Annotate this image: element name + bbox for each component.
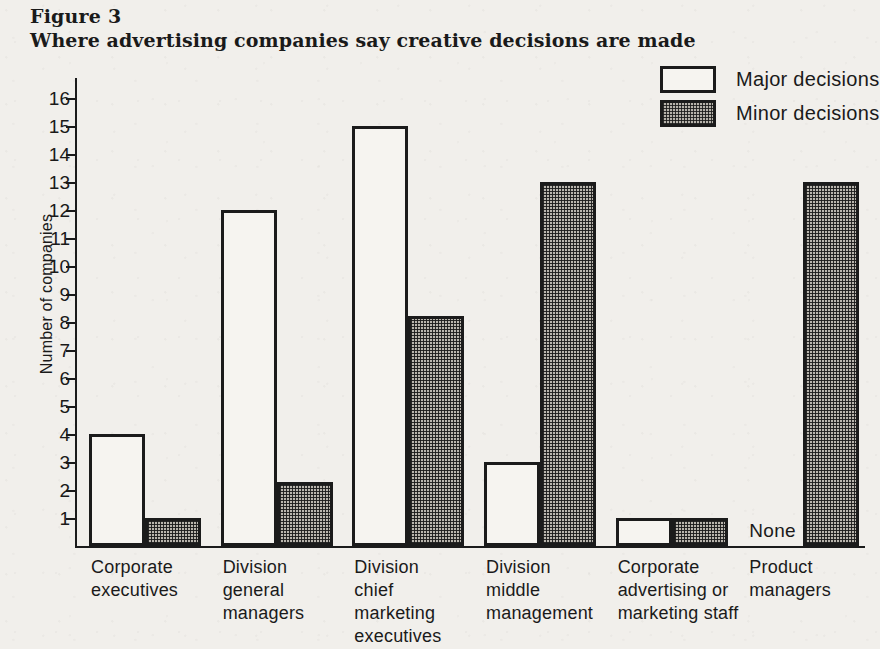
y-tick-label: 9 (59, 285, 70, 304)
bar-minor (672, 518, 728, 546)
page-title: Where advertising companies say creative… (30, 29, 696, 51)
bar-minor (408, 316, 464, 546)
bar-major (484, 462, 540, 546)
x-axis-label: Division general managers (223, 556, 349, 625)
x-axis-line (75, 546, 865, 548)
y-tick-label: 11 (50, 229, 70, 248)
x-axis-label: Corporate executives (91, 556, 217, 602)
y-tick-label: 3 (59, 453, 70, 472)
bar-major (352, 126, 408, 546)
bar-group (470, 84, 602, 546)
bar-group (602, 84, 734, 546)
plot-area: 12345678910111213141516 None Corporate e… (75, 84, 865, 546)
y-tick-label: 7 (59, 341, 70, 360)
bar-major (221, 210, 277, 546)
bar-major (616, 518, 672, 546)
bar-major (89, 434, 145, 546)
y-tick-label: 1 (59, 509, 70, 528)
y-tick-label: 13 (49, 173, 70, 192)
bar-minor (540, 182, 596, 546)
x-axis-label: Product managers (749, 556, 875, 602)
y-tick-label: 14 (49, 145, 70, 164)
none-annotation: None (749, 520, 796, 542)
x-axis-label: Corporate advertising or marketing staff (618, 556, 744, 625)
y-tick-label: 6 (59, 369, 70, 388)
figure-number: Figure 3 (30, 5, 121, 27)
y-tick-label: 5 (59, 397, 70, 416)
x-axis-label: Division chief marketing executives (354, 556, 480, 648)
bar-group (207, 84, 339, 546)
bar-minor (803, 182, 859, 546)
x-axis-label: Division middle management (486, 556, 612, 625)
bar-minor (277, 482, 333, 546)
y-tick-label: 8 (59, 313, 70, 332)
y-tick-label: 16 (49, 89, 70, 108)
bar-group (338, 84, 470, 546)
bar-minor (145, 518, 201, 546)
bar-group (75, 84, 207, 546)
figure-page: Figure 3 Where advertising companies say… (0, 0, 880, 649)
y-tick-label: 10 (49, 257, 70, 276)
y-tick-label: 2 (59, 481, 70, 500)
y-tick-label: 12 (49, 201, 70, 220)
y-tick-label: 15 (49, 117, 70, 136)
y-tick-label: 4 (59, 425, 70, 444)
bar-group: None (733, 84, 865, 546)
